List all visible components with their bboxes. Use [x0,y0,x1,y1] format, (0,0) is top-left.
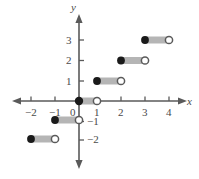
y-tick-label--1: −1 [87,116,99,127]
y-tick-label-3: 3 [66,35,72,46]
y-tick-label-2: 2 [66,55,72,66]
step-segment-bars [31,40,169,139]
x-tick-label--2: −2 [25,107,37,118]
y-tick-label--2: −2 [87,134,99,145]
open-dot-y2 [141,57,148,64]
closed-dot-ym2 [27,135,35,143]
y-tick-label-1: 1 [66,76,72,87]
x-axis-right-arrowhead [178,97,187,104]
x-axis-name: x [187,96,192,107]
closed-dot-y2 [117,57,125,65]
open-dot-ym1 [75,116,82,123]
open-dot-y0 [93,97,100,104]
x-tick-label-2: 2 [118,107,124,118]
open-dot-y3 [165,36,172,43]
closed-dot-y3 [141,36,149,44]
closed-dot-y1 [93,77,101,85]
origin-label: 0 [70,107,76,118]
open-dot-y1 [117,77,124,84]
x-tick-label--1: −1 [49,107,61,118]
x-tick-label-4: 4 [166,107,172,118]
y-axis-top-arrowhead [75,14,82,23]
y-axis [75,14,82,169]
step-function-graph-figure: −2 −1 0 1 2 3 4 3 2 1 −1 −2 x y [0,0,199,179]
x-tick-label-3: 3 [142,107,148,118]
closed-dot-y0 [75,97,83,105]
open-dot-ym2 [51,135,58,142]
y-axis-name: y [71,2,76,13]
x-axis-left-arrowhead [12,97,21,104]
y-axis-bottom-arrowhead [75,160,82,169]
coordinate-plane-svg [0,0,199,179]
open-endpoints [51,36,172,142]
